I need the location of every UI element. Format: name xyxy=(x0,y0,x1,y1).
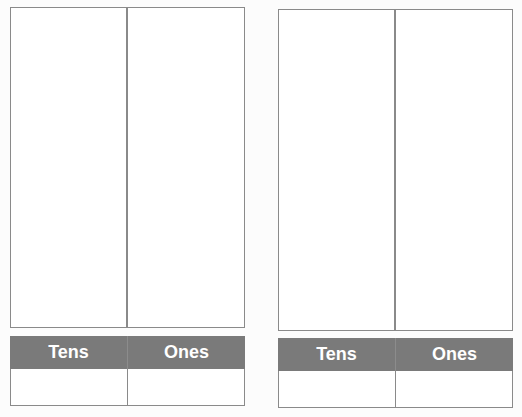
tens-header: Tens xyxy=(278,338,395,371)
tens-header: Tens xyxy=(10,336,127,369)
tens-answer-cell[interactable] xyxy=(279,371,395,407)
ones-header: Ones xyxy=(395,338,513,371)
work-area-right xyxy=(278,9,513,331)
column-divider xyxy=(126,8,128,327)
work-area-left xyxy=(10,7,245,328)
header-row-left: Tens Ones xyxy=(10,336,245,369)
tens-answer-cell[interactable] xyxy=(11,369,127,405)
answer-row-left xyxy=(10,369,245,406)
column-divider xyxy=(394,10,396,330)
header-row-right: Tens Ones xyxy=(278,338,513,371)
answer-row-right xyxy=(278,371,513,408)
ones-header: Ones xyxy=(127,336,245,369)
ones-answer-cell[interactable] xyxy=(395,371,512,407)
ones-answer-cell[interactable] xyxy=(127,369,244,405)
